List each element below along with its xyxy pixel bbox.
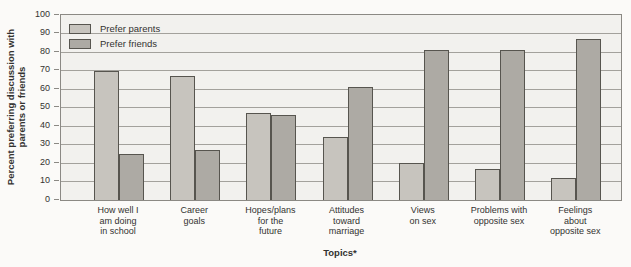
legend-item-prefer-friends: Prefer friends: [69, 38, 160, 50]
y-tick-label: 40: [16, 120, 50, 131]
y-tick-mark: [54, 88, 59, 89]
y-tick-mark: [54, 106, 59, 107]
legend-label-prefer-parents: Prefer parents: [100, 24, 160, 34]
bar-prefer-friends: [119, 154, 144, 200]
y-tick-mark: [54, 180, 59, 181]
y-axis-title-line1: Percent preferring discussion with: [5, 29, 16, 185]
prefer-parents-swatch-icon: [69, 24, 91, 34]
y-tick-label: 10: [16, 175, 50, 186]
y-tick-mark: [54, 14, 59, 15]
y-tick-mark: [54, 199, 59, 200]
bar-prefer-friends: [424, 50, 449, 200]
bar-prefer-friends: [195, 150, 220, 200]
gridline: [61, 107, 621, 108]
legend-item-prefer-parents: Prefer parents: [69, 23, 160, 35]
x-category-label-line: about: [520, 216, 630, 227]
bar-prefer-parents: [170, 76, 195, 200]
y-tick-label: 0: [16, 194, 50, 205]
y-tick-mark: [54, 69, 59, 70]
y-tick-label: 60: [16, 83, 50, 94]
bar-prefer-parents: [323, 137, 348, 200]
y-tick-label: 50: [16, 101, 50, 112]
x-category-label-line: marriage: [292, 226, 402, 237]
bar-prefer-parents: [475, 169, 500, 200]
bar-prefer-friends: [348, 87, 373, 200]
bar-prefer-parents: [551, 178, 576, 200]
bar-chart-figure: Percent preferring discussion with paren…: [0, 0, 631, 267]
prefer-friends-swatch-icon: [69, 39, 91, 49]
gridline: [61, 126, 621, 127]
y-tick-label: 100: [16, 9, 50, 20]
legend-label-prefer-friends: Prefer friends: [100, 39, 157, 49]
bar-prefer-friends: [576, 39, 601, 200]
bar-prefer-friends: [500, 50, 525, 200]
bar-prefer-parents: [399, 163, 424, 200]
x-axis-title: Topics*: [60, 247, 620, 258]
y-tick-mark: [54, 125, 59, 126]
y-tick-label: 30: [16, 138, 50, 149]
x-category-label-line: in school: [63, 226, 173, 237]
y-tick-mark: [54, 143, 59, 144]
y-tick-label: 90: [16, 27, 50, 38]
bar-prefer-friends: [271, 115, 296, 200]
x-category-label-line: opposite sex: [520, 226, 630, 237]
y-tick-mark: [54, 162, 59, 163]
bar-prefer-parents: [246, 113, 271, 200]
x-category-label-line: Feelings: [520, 205, 630, 216]
gridline: [61, 89, 621, 90]
gridline: [61, 70, 621, 71]
y-tick-label: 70: [16, 64, 50, 75]
y-tick-label: 80: [16, 46, 50, 57]
y-tick-label: 20: [16, 157, 50, 168]
x-category-label: Feelingsaboutopposite sex: [520, 205, 630, 237]
legend: Prefer parents Prefer friends: [69, 23, 160, 53]
y-tick-mark: [54, 51, 59, 52]
y-tick-mark: [54, 32, 59, 33]
bar-prefer-parents: [94, 71, 119, 201]
